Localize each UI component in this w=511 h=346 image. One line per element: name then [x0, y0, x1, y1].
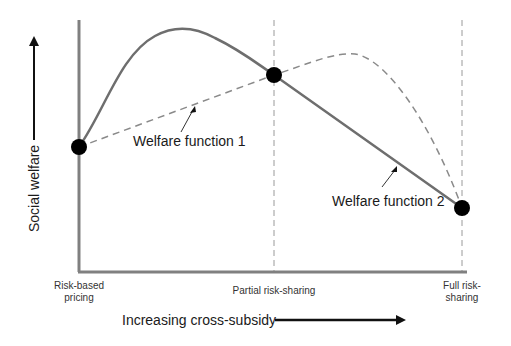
tick-line: Partial risk-sharing — [224, 285, 324, 297]
tick-line: pricing — [48, 292, 110, 304]
arrowhead-icon — [391, 166, 397, 172]
right-arrow-icon — [396, 315, 406, 325]
welfare-function-1-pointer — [181, 110, 193, 132]
welfare-function-2-label: Welfare function 2 — [332, 193, 445, 209]
x-tick-full-risk-sharing: Full risk- sharing — [436, 280, 488, 304]
welfare-function-2-curve — [79, 29, 462, 208]
partial-risk-sharing-point — [266, 67, 282, 83]
welfare-function-2-pointer — [382, 170, 395, 187]
x-tick-partial-risk-sharing: Partial risk-sharing — [224, 285, 324, 297]
y-axis-title: Social welfare — [26, 145, 42, 232]
arrowhead-icon — [190, 106, 196, 113]
x-axis-title: Increasing cross-subsidy — [122, 312, 276, 328]
tick-line: sharing — [436, 292, 488, 304]
tick-line: Full risk- — [436, 280, 488, 292]
tick-line: Risk-based — [48, 280, 110, 292]
risk-based-point — [71, 139, 87, 155]
welfare-function-1-label: Welfare function 1 — [133, 133, 246, 149]
full-risk-sharing-point — [454, 200, 470, 216]
up-arrow-icon — [29, 36, 39, 46]
x-tick-risk-based-pricing: Risk-based pricing — [48, 280, 110, 304]
